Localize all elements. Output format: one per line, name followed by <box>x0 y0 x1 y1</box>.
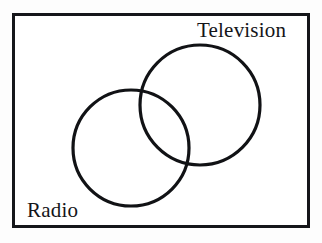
circle-television <box>140 45 260 165</box>
label-radio: Radio <box>27 200 78 221</box>
venn-diagram-page: Television Radio <box>0 0 322 243</box>
label-television: Television <box>197 20 286 41</box>
circle-radio <box>73 90 189 206</box>
